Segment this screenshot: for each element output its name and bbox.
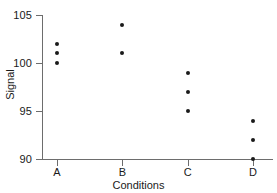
plot-area bbox=[42, 15, 273, 159]
y-tick-mark bbox=[36, 159, 42, 160]
x-tick-label: A bbox=[45, 167, 69, 178]
data-point bbox=[120, 23, 124, 27]
data-point bbox=[186, 90, 190, 94]
x-tick-label: B bbox=[110, 167, 134, 178]
data-point bbox=[251, 119, 255, 123]
x-axis-line bbox=[42, 159, 273, 160]
data-point bbox=[120, 51, 124, 55]
data-point bbox=[55, 61, 59, 65]
x-tick-label: D bbox=[241, 167, 265, 178]
y-tick-label: 105 bbox=[0, 10, 32, 21]
x-axis-title: Conditions bbox=[0, 180, 277, 191]
data-point bbox=[251, 138, 255, 142]
x-tick-label: C bbox=[176, 167, 200, 178]
y-tick-label: 90 bbox=[0, 154, 32, 165]
data-point bbox=[186, 109, 190, 113]
data-point bbox=[55, 51, 59, 55]
y-axis-title: Signal bbox=[5, 55, 16, 115]
data-point bbox=[55, 42, 59, 46]
scatter-plot-figure: 9095100105 ABCD Signal Conditions bbox=[0, 0, 277, 193]
data-point bbox=[251, 157, 255, 161]
data-point bbox=[186, 71, 190, 75]
